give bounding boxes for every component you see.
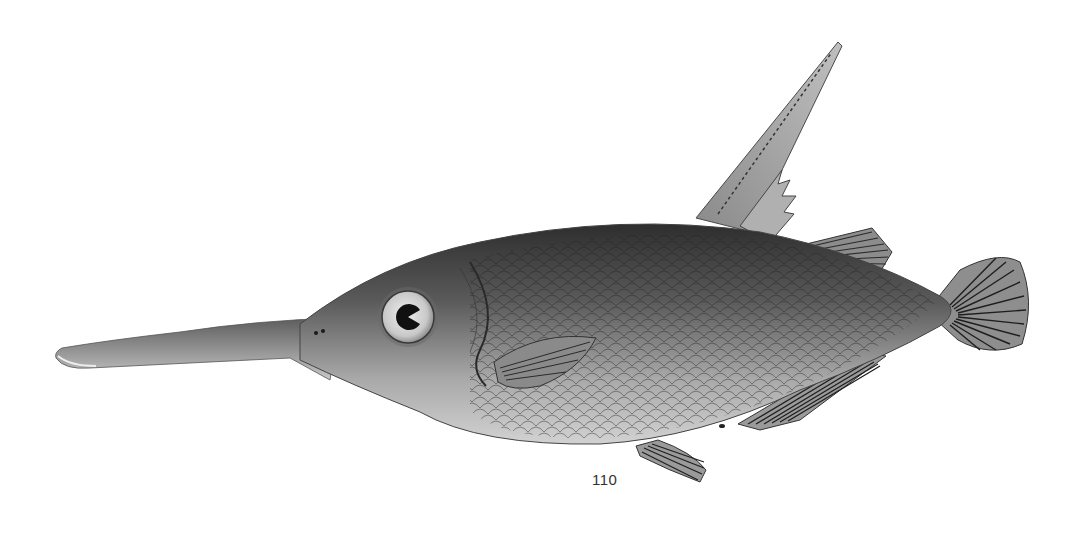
snout — [56, 318, 340, 380]
tail-fin — [936, 258, 1029, 351]
fish-illustration — [0, 0, 1084, 539]
eye — [378, 287, 438, 347]
page-number: 110 — [592, 471, 617, 488]
dorsal-spine — [696, 42, 842, 242]
pelvic-fin — [636, 440, 706, 482]
